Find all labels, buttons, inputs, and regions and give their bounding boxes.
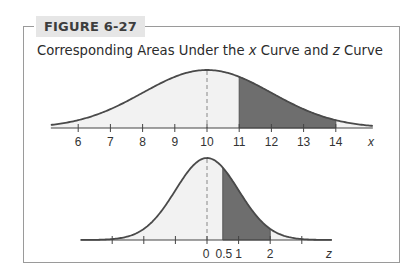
chart-canvas: 67891011121314x 00.512z <box>0 0 420 278</box>
tick-label: 7 <box>107 135 114 149</box>
x-curve-chart: 67891011121314x <box>51 70 375 149</box>
tick-label: 9 <box>171 135 178 149</box>
tick-label: 0.5 <box>215 247 232 261</box>
tick-label: 14 <box>329 135 343 149</box>
axis-variable-label: z <box>325 247 332 261</box>
axis-variable-label: x <box>367 135 375 149</box>
tick-label: 8 <box>139 135 146 149</box>
tick-label: 10 <box>200 135 214 149</box>
tick-label: 2 <box>267 247 274 261</box>
z-curve-chart: 00.512z <box>81 158 332 261</box>
tick-label: 1 <box>235 247 242 261</box>
tick-label: 0 <box>203 247 210 261</box>
light-area <box>81 158 332 240</box>
tick-label: 11 <box>233 135 246 149</box>
tick-label: 12 <box>265 135 279 149</box>
tick-label: 13 <box>297 135 311 149</box>
tick-label: 6 <box>75 135 82 149</box>
